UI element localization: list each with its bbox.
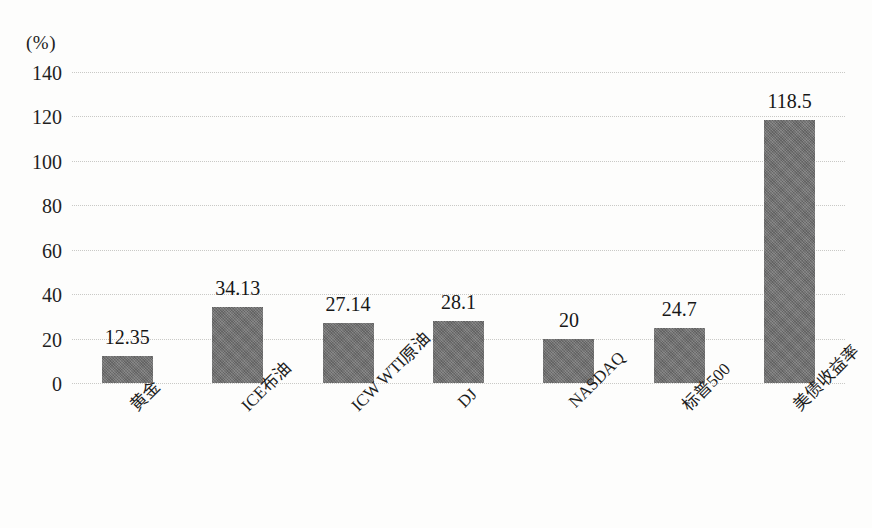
bar[interactable]: 34.13 [212,307,263,383]
bar-value-label: 34.13 [215,277,260,300]
x-tick-label-dj: DJ [454,385,482,413]
bar[interactable]: 28.1 [433,321,484,383]
bar[interactable]: 118.5 [764,120,815,383]
x-label-slot: ICE布油 [182,392,292,512]
y-tick-label-40: 40 [42,284,72,307]
y-tick-label-60: 60 [42,239,72,262]
y-tick-label-100: 100 [32,150,72,173]
bar-value-label: 28.1 [441,291,476,314]
y-axis-unit-label: (%) [26,32,56,54]
bar-slot: 12.35 [72,72,182,383]
bar-value-label: 118.5 [768,90,812,113]
x-label-slot: ICW WTI原油 [293,392,403,512]
x-label-slot: 美债收益率 [735,392,845,512]
gridline-0-baseline: 0 [72,383,845,384]
bar-series: 12.35 34.13 27.14 28.1 20 [72,72,845,383]
y-tick-label-80: 80 [42,195,72,218]
bar-slot: 24.7 [624,72,734,383]
x-label-slot: DJ [403,392,513,512]
bar-value-label: 27.14 [326,293,371,316]
y-tick-label-140: 140 [32,62,72,85]
bar-value-label: 20 [559,309,579,332]
plot-area: 140 120 100 80 60 40 20 0 12.35 [72,72,845,383]
bar-chart-figure: (%) 140 120 100 80 60 40 20 0 1 [0,0,872,528]
x-label-slot: 标普500 [624,392,734,512]
bar-value-label: 12.35 [105,326,150,349]
bar-slot: 118.5 [735,72,845,383]
bar-slot: 20 [514,72,624,383]
bar-slot: 27.14 [293,72,403,383]
y-tick-label-20: 20 [42,328,72,351]
bar-slot: 34.13 [182,72,292,383]
x-label-slot: NASDAQ [514,392,624,512]
bar[interactable]: 27.14 [323,323,374,383]
x-label-slot: 黄金 [72,392,182,512]
x-axis-category-labels: 黄金 ICE布油 ICW WTI原油 DJ NASDAQ 标普500 美债收益率 [72,392,845,512]
y-tick-label-0: 0 [52,373,72,396]
bar-value-label: 24.7 [662,298,697,321]
y-tick-label-120: 120 [32,106,72,129]
